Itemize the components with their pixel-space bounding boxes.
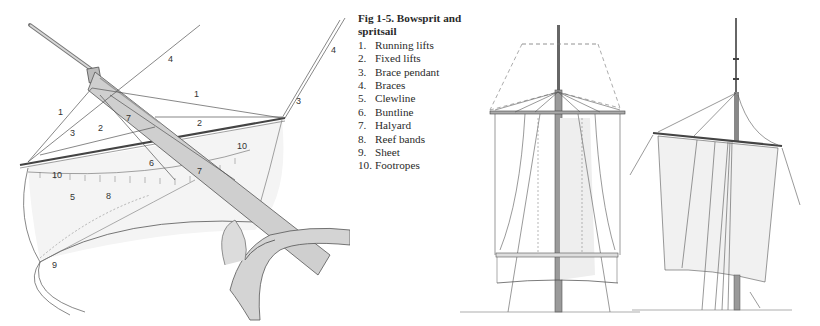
- label-7b: 7: [197, 166, 202, 176]
- label-1a: 1: [58, 107, 63, 117]
- legend-item: 6.Buntline: [358, 106, 468, 119]
- label-4a: 4: [168, 54, 173, 64]
- legend-item: 5.Clewline: [358, 92, 468, 105]
- label-6: 6: [149, 158, 154, 168]
- label-5: 5: [70, 192, 75, 202]
- label-3a: 3: [70, 128, 75, 138]
- label-9: 9: [52, 260, 57, 270]
- legend-item: 3.Brace pendant: [358, 66, 468, 79]
- label-10a: 10: [52, 170, 62, 180]
- label-2b: 2: [197, 118, 202, 128]
- legend-item: 1.Running lifts: [358, 39, 468, 52]
- legend-item: 2.Fixed lifts: [358, 52, 468, 65]
- front-view-illustration: [460, 0, 640, 326]
- legend-item: 9.Sheet: [358, 146, 468, 159]
- bowsprit-illustration: 1 1 2 2 3 3 4 4 5 6 7 7 8 9 10 10: [0, 0, 350, 326]
- set-sail-drawing: [620, 0, 820, 326]
- legend-item: 8.Reef bands: [358, 133, 468, 146]
- bowsprit-perspective-drawing: 1 1 2 2 3 3 4 4 5 6 7 7 8 9 10 10: [0, 0, 350, 326]
- front-view-drawing: [460, 0, 640, 326]
- legend-item: 4.Braces: [358, 79, 468, 92]
- label-10b: 10: [237, 141, 247, 151]
- label-2a: 2: [98, 123, 103, 133]
- label-7a: 7: [126, 113, 131, 123]
- legend-list: 1.Running lifts 2.Fixed lifts 3.Brace pe…: [358, 39, 468, 173]
- figure-caption: Fig 1-5. Bowsprit and spritsail 1.Runnin…: [358, 12, 468, 173]
- label-4b: 4: [331, 45, 336, 55]
- label-1b: 1: [194, 89, 199, 99]
- label-8: 8: [106, 191, 111, 201]
- set-sail-illustration: [620, 0, 820, 326]
- legend-item: 7.Halyard: [358, 119, 468, 132]
- figure-title: Fig 1-5. Bowsprit and spritsail: [358, 12, 468, 39]
- label-3b: 3: [296, 96, 301, 106]
- legend-item: 10.Footropes: [358, 159, 468, 172]
